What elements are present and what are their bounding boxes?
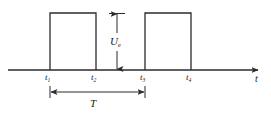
period-label: T (90, 98, 96, 109)
tick-label-t4: t4 (186, 73, 191, 82)
tick-label-t2: t2 (91, 73, 96, 82)
pulse-1 (50, 13, 96, 70)
time-axis-label: t (255, 74, 258, 84)
pulse-train-figure: t1 t2 t3 t4 Ue T t (0, 0, 271, 115)
waveform-svg (0, 0, 271, 115)
period-dimension (50, 86, 145, 98)
pulse-2 (145, 13, 191, 70)
tick-label-t3: t3 (140, 73, 145, 82)
amplitude-label: Ue (110, 36, 121, 47)
tick-label-t1: t1 (45, 73, 50, 82)
